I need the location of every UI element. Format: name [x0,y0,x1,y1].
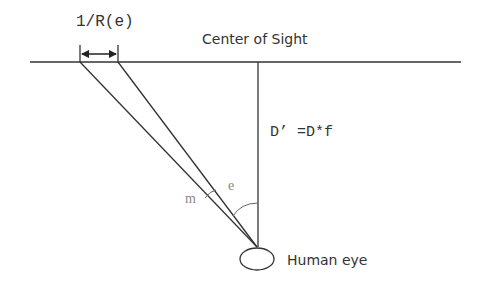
human-eye-label: Human eye [287,252,367,268]
distance-formula-label: D’ =D*f [270,124,333,141]
human-eye-icon [240,248,274,270]
sight-line-right [118,62,257,247]
viewing-angle-diagram: 1/R(e) Center of Sight D’ =D*f e m Human… [0,0,485,291]
sight-line-left [80,62,257,247]
angle-m-label: m [185,191,196,206]
angle-e-arc [233,203,258,216]
resolution-label: 1/R(e) [76,13,134,31]
angle-e-label: e [228,178,234,193]
center-of-sight-label: Center of Sight [202,31,308,47]
